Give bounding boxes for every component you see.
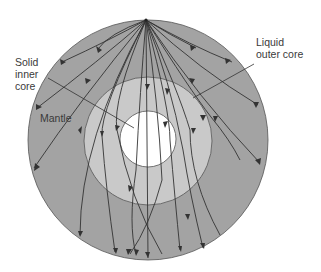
outer-core-label: Liquid outer core bbox=[256, 36, 303, 60]
inner-core-label: Solid inner core bbox=[15, 56, 38, 92]
source-point bbox=[144, 18, 147, 21]
inner-core-layer bbox=[120, 111, 176, 167]
mantle-label: Mantle bbox=[40, 112, 72, 124]
